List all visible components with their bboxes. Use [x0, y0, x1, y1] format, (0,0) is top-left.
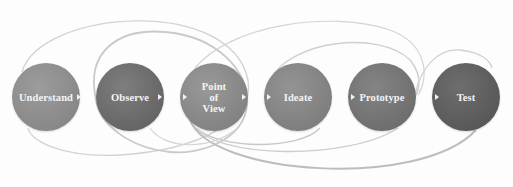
node-label: Prototype [359, 92, 404, 103]
node-understand: Understand [12, 63, 80, 131]
arrow-right-icon [77, 94, 81, 100]
arrow-right-icon [183, 94, 187, 100]
node-point-of-view: Point of View [180, 63, 248, 131]
arrow-right-icon [435, 94, 439, 100]
node-label: Point of View [202, 81, 226, 114]
arrow-right-icon [242, 94, 246, 100]
node-test: Test [432, 63, 500, 131]
arrow-right-icon [267, 94, 271, 100]
node-prototype: Prototype [348, 63, 416, 131]
node-ideate: Ideate [264, 63, 332, 131]
arrow-right-icon [351, 94, 355, 100]
node-label: Ideate [284, 92, 313, 103]
node-observe: Observe [96, 63, 164, 131]
design-thinking-diagram: Understand Observe Point of View Ideate … [0, 0, 513, 187]
node-label: Observe [111, 92, 149, 103]
node-label: Understand [19, 92, 73, 103]
loop-arc-pov-test-under [190, 120, 476, 169]
arrow-right-icon [158, 94, 162, 100]
node-label: Test [457, 92, 476, 103]
